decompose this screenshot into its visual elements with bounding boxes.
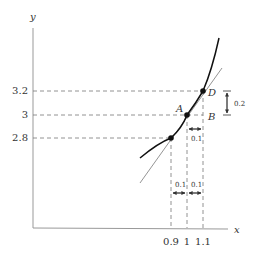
label-D: D (207, 87, 216, 98)
label-A: A (175, 103, 183, 114)
y-tick-3.2: 3.2 (12, 85, 28, 96)
point-D (200, 88, 206, 94)
point-lower (168, 135, 174, 141)
dx-left-label: 0.1 (175, 181, 186, 189)
x-tick-0.9: 0.9 (163, 236, 179, 247)
dy-label: 0.2 (234, 100, 245, 108)
dx-right-label: 0.1 (191, 181, 202, 189)
dx-top-label: 0.1 (191, 135, 202, 143)
curve (140, 38, 219, 158)
x-tick-1: 1 (184, 236, 190, 247)
label-B: B (207, 111, 215, 122)
y-axis-label: y (29, 11, 36, 22)
point-A (184, 112, 190, 118)
x-axis-label: x (234, 224, 240, 235)
tangent-diagram: y x 3.2 3 2.8 0.9 1 1.1 A B D 0.2 0.1 0.… (0, 0, 255, 255)
diagram: y x 3.2 3 2.8 0.9 1 1.1 A B D 0.2 0.1 0.… (0, 0, 255, 255)
y-tick-3: 3 (22, 109, 28, 120)
y-tick-2.8: 2.8 (12, 132, 28, 143)
x-axis (33, 228, 228, 229)
x-tick-1.1: 1.1 (195, 236, 211, 247)
